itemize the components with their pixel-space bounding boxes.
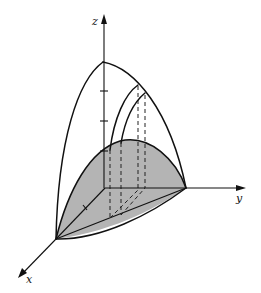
solid-diagram: z y x	[0, 0, 261, 293]
z-axis-label: z	[91, 15, 98, 28]
y-axis-label: y	[235, 192, 243, 205]
shaded-region	[56, 140, 186, 239]
x-axis-label: x	[26, 273, 33, 286]
x-axis: x	[18, 239, 56, 286]
